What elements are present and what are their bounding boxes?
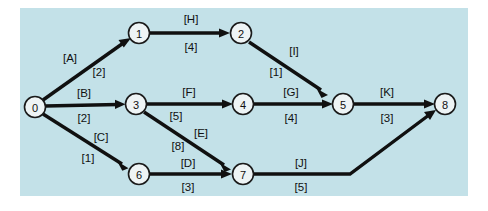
node-7-label: 7 [240, 169, 246, 181]
edge-K-weight: [3] [381, 112, 394, 124]
edge-A-name: [A] [63, 52, 77, 64]
edge-G-weight: [4] [285, 112, 298, 124]
node-4: 4 [233, 94, 254, 115]
edge-K-arrowhead [424, 99, 435, 108]
node-7: 7 [233, 164, 254, 185]
node-3-label: 3 [133, 99, 139, 111]
node-5-label: 5 [340, 99, 346, 111]
edge-J: [J] [5] [254, 110, 436, 193]
edge-I-name: [I] [289, 45, 299, 57]
edge-C-weight: [1] [82, 152, 95, 164]
edge-J-line [254, 115, 429, 174]
node-0: 0 [25, 97, 46, 118]
edge-B-arrowhead [115, 100, 126, 109]
edge-G-arrowhead [322, 99, 333, 108]
edge-K-name: [K] [380, 86, 394, 98]
edge-F-arrowhead [222, 99, 233, 108]
node-1-label: 1 [136, 28, 142, 40]
node-3: 3 [126, 94, 147, 115]
edge-C-name: [C] [94, 131, 109, 143]
network-diagram-figure: [A] [2] [B] [2] [C] [1] [H] [4] [0, 0, 488, 211]
node-8: 8 [435, 94, 456, 115]
node-4-label: 4 [240, 99, 246, 111]
node-8-label: 8 [442, 99, 448, 111]
edge-H-arrowhead [219, 28, 230, 37]
edge-E-weight: [8] [172, 140, 185, 152]
edge-H-name: [H] [184, 13, 199, 25]
node-2: 2 [231, 23, 252, 44]
edge-H: [H] [4] [150, 13, 230, 53]
edge-I-line [249, 42, 321, 90]
node-5: 5 [333, 94, 354, 115]
edge-F-name: [F] [182, 86, 195, 98]
edge-I-arrowhead [317, 89, 329, 99]
edge-F-weight: [5] [170, 110, 183, 122]
edge-B-weight: [2] [78, 112, 91, 124]
edge-H-weight: [4] [185, 41, 198, 53]
graph-canvas: [A] [2] [B] [2] [C] [1] [H] [4] [0, 0, 488, 211]
edge-B-line [45, 105, 118, 107]
node-0-label: 0 [32, 102, 38, 114]
node-2-label: 2 [238, 28, 244, 40]
edge-D-weight: [3] [182, 181, 195, 193]
edge-B: [B] [2] [45, 87, 126, 124]
node-6-label: 6 [136, 169, 142, 181]
edge-J-weight: [5] [295, 181, 308, 193]
edge-I-weight: [1] [270, 66, 283, 78]
edge-B-name: [B] [77, 87, 91, 99]
node-1: 1 [129, 23, 150, 44]
edge-D-name: [D] [181, 157, 196, 169]
edge-G-name: [G] [283, 86, 298, 98]
edge-J-name: [J] [295, 157, 307, 169]
edge-F: [F] [5] [147, 86, 233, 122]
edge-A-weight: [2] [93, 66, 106, 78]
node-6: 6 [129, 164, 150, 185]
edge-E-name: [E] [194, 127, 208, 139]
